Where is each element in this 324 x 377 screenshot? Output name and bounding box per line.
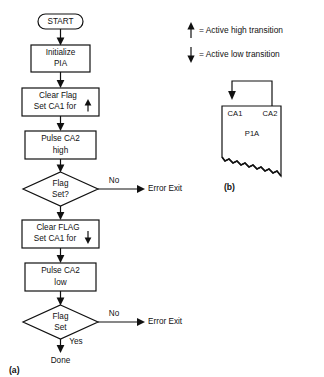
arrowhead-down-icon [57, 255, 65, 263]
arrowhead-down-icon [228, 91, 236, 100]
pia-chip-label: P1A [245, 129, 260, 138]
node-decision-flag-set-2[interactable]: Flag Set [23, 305, 98, 339]
arrowhead-down-icon [57, 165, 65, 173]
node-clearflag2-line2: Set CA1 for [34, 234, 77, 243]
arrowhead-down-icon [57, 123, 65, 131]
decision-flag-set-1-diamond [23, 172, 98, 206]
node-pulsehigh-line2: high [53, 146, 69, 155]
panel-b: CA1 CA2 P1A (b) [222, 81, 281, 192]
connector-start-to-init [57, 29, 65, 46]
arrowhead-down-icon [57, 298, 65, 306]
node-pulsehigh-line1: Pulse CA2 [41, 134, 80, 143]
node-flagset2-line2: Set [54, 323, 67, 332]
pia-pin-ca2-label: CA2 [263, 109, 278, 118]
arrowhead-down-icon [57, 80, 65, 88]
node-clearflag1-line2: Set CA1 for [34, 102, 77, 111]
node-pulselow-line1: Pulse CA2 [41, 266, 80, 275]
connector-init-to-clearflag1 [57, 72, 65, 88]
panel-a-label: (a) [9, 365, 20, 375]
branch-no-2-label: No [109, 309, 120, 318]
feedback-loop-ca2-to-ca1 [228, 81, 272, 106]
connector-flagset1-to-clearflag2 [57, 206, 65, 220]
connector-pulselow-to-flagset2 [57, 291, 65, 306]
node-clear-flag-2[interactable]: Clear FLAG Set CA1 for [22, 220, 99, 248]
legend: = Active high transition = Active low tr… [187, 22, 283, 63]
legend-item-active-low: = Active low transition [187, 47, 280, 63]
panel-a: START Initialize PIA Clear Flag Set CA1 … [9, 14, 183, 375]
node-pulse-ca2-low[interactable]: Pulse CA2 low [25, 263, 96, 291]
branch-no-2: No Error Exit [98, 309, 183, 326]
connector-pulsehigh-to-flagset1 [57, 159, 65, 173]
legend-item-active-low-label: = Active low transition [199, 49, 280, 59]
arrowhead-down-icon [57, 38, 65, 46]
node-flagset1-line1: Flag [53, 179, 69, 188]
connector-clearflag2-to-pulselow [57, 248, 65, 263]
branch-yes-label: Yes [69, 337, 82, 346]
node-start-label: START [47, 17, 73, 26]
branch-yes: Yes Done [51, 337, 83, 365]
error-exit-1-label: Error Exit [148, 184, 183, 193]
connector-clearflag1-to-pulsehigh [57, 116, 65, 131]
node-pulselow-line2: low [54, 278, 66, 287]
node-decision-flag-set-1[interactable]: Flag Set? [23, 172, 98, 206]
arrowhead-right-icon [137, 185, 145, 193]
node-pulse-ca2-high[interactable]: Pulse CA2 high [25, 131, 96, 159]
down-arrow-icon [187, 47, 194, 63]
branch-no-1-label: No [109, 176, 120, 185]
node-done-label: Done [51, 356, 71, 365]
arrowhead-down-icon [57, 345, 65, 353]
flowchart-figure: START Initialize PIA Clear Flag Set CA1 … [0, 0, 324, 377]
node-clearflag1-line1: Clear Flag [39, 91, 77, 100]
node-flagset1-line2: Set? [52, 190, 69, 199]
decision-flag-set-2-diamond [23, 305, 98, 339]
node-init-line2: PIA [54, 59, 68, 68]
node-clear-flag-1[interactable]: Clear Flag Set CA1 for [22, 88, 99, 116]
panel-b-label: (b) [224, 182, 235, 192]
node-initialize-pia[interactable]: Initialize PIA [31, 45, 90, 72]
node-flagset2-line1: Flag [53, 312, 69, 321]
legend-item-active-high-label: = Active high transition [199, 25, 283, 35]
node-init-line1: Initialize [46, 48, 76, 57]
node-start[interactable]: START [38, 14, 83, 29]
pia-pin-ca1-label: CA1 [228, 109, 243, 118]
error-exit-2-label: Error Exit [148, 317, 183, 326]
legend-item-active-high: = Active high transition [187, 22, 283, 38]
arrowhead-down-icon [57, 212, 65, 220]
branch-no-1: No Error Exit [98, 176, 183, 193]
pia-chip[interactable]: CA1 CA2 P1A [222, 106, 281, 176]
node-clearflag2-line1: Clear FLAG [36, 223, 79, 232]
up-arrow-icon [187, 22, 194, 38]
arrowhead-right-icon [137, 318, 145, 326]
